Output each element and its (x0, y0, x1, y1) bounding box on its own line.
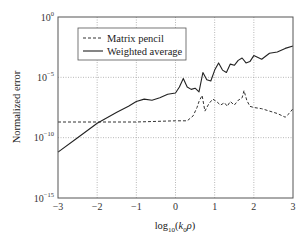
chart: −3−2−10123 10010−510−1010−15 Matrix penc… (0, 0, 307, 240)
x-tick-label: 0 (173, 201, 178, 212)
x-tick-label: −2 (92, 201, 103, 212)
x-tick-label: −3 (53, 201, 64, 212)
x-tick-label: 1 (212, 201, 217, 212)
x-tick-label: −1 (131, 201, 142, 212)
y-tick-labels: 10010−510−1010−15 (34, 10, 54, 204)
y-tick-label: 10−10 (34, 130, 54, 143)
x-tick-label: 2 (251, 201, 256, 212)
x-axis-label: log10(k0ρ) (155, 220, 196, 234)
y-tick-label: 10−5 (37, 70, 54, 83)
legend-label-weighted-average: Weighted average (107, 46, 183, 57)
legend: Matrix pencil Weighted average (78, 28, 186, 60)
x-tick-label: 3 (291, 201, 296, 212)
legend-label-matrix-pencil: Matrix pencil (107, 33, 164, 44)
y-tick-label: 10−15 (34, 191, 54, 204)
y-axis-label: Normalized error (11, 70, 22, 143)
y-tick-label: 100 (41, 10, 54, 23)
x-tick-labels: −3−2−10123 (53, 201, 296, 212)
